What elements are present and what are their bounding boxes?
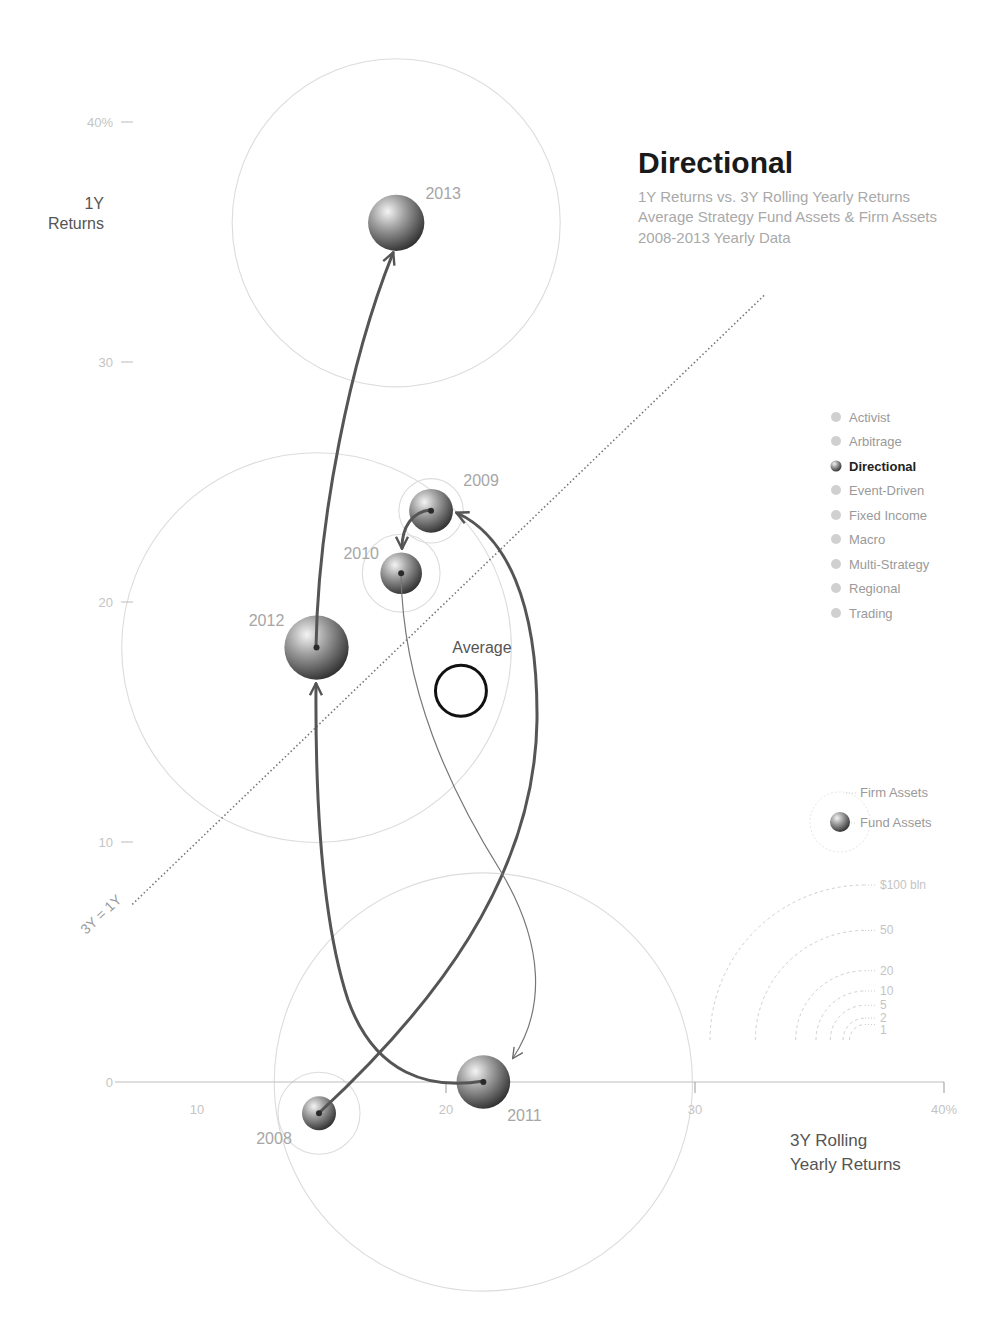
year-label-2008: 2008 [256,1130,292,1147]
legend-item-multi-strategy[interactable]: Multi-Strategy [831,557,930,572]
assets-type-legend: Firm Assets Fund Assets [810,785,932,852]
legend-dot-icon [831,534,841,544]
legend-label: Fixed Income [849,508,927,523]
legend-item-fixed-income[interactable]: Fixed Income [831,508,927,523]
arrow-2008-to-2009 [320,513,537,1112]
legend-dot-icon [831,608,841,618]
y-tick-label: 20 [99,595,113,610]
y-tick-label: 30 [99,355,113,370]
year-label-2013: 2013 [425,185,461,202]
size-arc-50 [755,930,865,1040]
year-label-2011: 2011 [507,1107,542,1124]
strategy-legend: Activist Arbitrage Directional Event-Dri… [831,410,930,621]
legend-label: Macro [849,532,885,547]
legend-label: Trading [849,606,893,621]
legend-item-macro[interactable]: Macro [831,532,885,547]
fund-assets-bubble-2013[interactable] [368,195,424,251]
legend-dot-icon [831,436,841,446]
legend-dot-icon [831,412,841,422]
legend-label: Regional [849,581,900,596]
x-tick-label: 40% [931,1102,957,1117]
y-tick-label: 40% [87,115,113,130]
size-scale-legend: $100 bln502010521 [710,878,926,1040]
fund-assets-label: Fund Assets [860,815,932,830]
legend-item-regional[interactable]: Regional [831,581,900,596]
size-arc-1 [850,1025,866,1041]
legend-label: Activist [849,410,891,425]
axes: 010203040%10203040% [87,115,957,1117]
legend-item-activist[interactable]: Activist [831,410,891,425]
center-dot-2009 [428,508,434,514]
legend-item-directional[interactable]: Directional [831,459,917,474]
title-block: Directional 1Y Returns vs. 3Y Rolling Ye… [638,146,937,246]
x-tick-label: 30 [688,1102,702,1117]
x-axis-title-line-1: 3Y Rolling [790,1131,867,1150]
x-axis-title-line-2: Yearly Returns [790,1155,901,1174]
center-dot-2012 [314,645,320,651]
arrow-2012-to-2013 [316,253,393,648]
x-tick-label: 20 [439,1102,453,1117]
year-label-2012: 2012 [249,612,285,629]
y-axis-title-line-2: Returns [48,215,104,232]
legend-dot-icon [831,485,841,495]
firm-assets-label: Firm Assets [860,785,928,800]
subtitle-line-3: 2008-2013 Yearly Data [638,229,791,246]
size-label-100: $100 bln [880,878,926,892]
x-axis-title: 3Y Rolling Yearly Returns [790,1131,901,1174]
legend-dot-icon [831,510,841,520]
size-label-50: 50 [880,923,894,937]
arrow-2011-to-2012 [316,684,484,1083]
size-label-20: 20 [880,964,894,978]
subtitle-line-1: 1Y Returns vs. 3Y Rolling Yearly Returns [638,188,910,205]
legend-dot-icon [831,583,841,593]
y-tick-label: 0 [106,1075,113,1090]
y-tick-label: 10 [99,835,113,850]
size-label-10: 10 [880,984,894,998]
legend-label: Multi-Strategy [849,557,930,572]
size-arc-10 [816,991,865,1040]
year-label-2010: 2010 [343,545,379,562]
y-axis-title-line-1: 1Y [84,195,104,212]
legend-item-trading[interactable]: Trading [831,606,893,621]
legend-label: Arbitrage [849,434,902,449]
center-dot-2010 [398,570,404,576]
average-label: Average [452,639,511,656]
average-ring[interactable] [435,665,486,716]
legend-item-arbitrage[interactable]: Arbitrage [831,434,902,449]
legend-label: Event-Driven [849,483,924,498]
legend-item-event-driven[interactable]: Event-Driven [831,483,924,498]
chart-title: Directional [638,146,793,179]
legend-dot-icon [831,559,841,569]
size-label-1: 1 [880,1023,887,1037]
size-arc-5 [830,1005,865,1040]
x-tick-label: 10 [190,1102,204,1117]
legend-sphere-icon [831,461,842,472]
reference-line-3y-equals-1y: 3Y = 1Y [77,295,765,937]
center-dot-2011 [480,1079,486,1085]
diagonal-dotted-line [132,295,764,905]
bubble-chart: Directional 1Y Returns vs. 3Y Rolling Ye… [0,0,1006,1330]
year-label-2009: 2009 [463,472,499,489]
center-dot-2008 [316,1110,322,1116]
y-axis-title: 1Y Returns [48,195,104,232]
legend-label: Directional [849,459,916,474]
diagonal-label: 3Y = 1Y [77,891,125,937]
year-trajectory-arrows [314,253,538,1116]
fund-assets-bubbles [284,195,510,1131]
subtitle-line-2: Average Strategy Fund Assets & Firm Asse… [638,208,937,225]
fund-assets-sphere-icon [830,812,850,832]
